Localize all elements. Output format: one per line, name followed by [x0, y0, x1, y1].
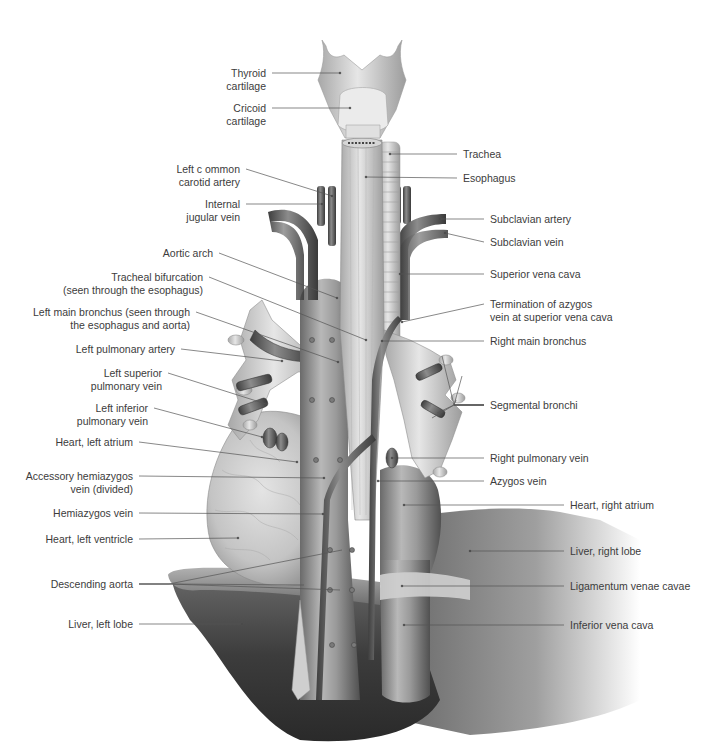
label-superior-vena-cava: Superior vena cava: [490, 268, 580, 281]
leader-dot: [365, 339, 367, 341]
leader-dot: [331, 195, 333, 197]
label-text: Azygos vein: [490, 475, 547, 488]
leader-dot: [265, 403, 267, 405]
leader-dot: [323, 477, 325, 479]
label-hemiazygos-vein: Hemiazygos vein: [53, 507, 133, 520]
label-azygos-vein: Azygos vein: [490, 475, 547, 488]
label-cricoid-cartilage: Cricoidcartilage: [226, 102, 266, 128]
label-text: cartilage: [226, 80, 266, 93]
label-text: Inferior vena cava: [570, 619, 653, 632]
label-text: pulmonary vein: [77, 415, 148, 428]
label-text: Trachea: [463, 148, 501, 161]
label-text: Left c ommon: [176, 163, 240, 176]
label-segmental-bronchi: Segmental bronchi: [490, 399, 578, 412]
label-text: Right pulmonary vein: [490, 452, 589, 465]
leader-dot: [381, 340, 383, 342]
leader-dot: [403, 504, 405, 506]
leader-line: [445, 233, 484, 242]
leader-dot: [377, 480, 379, 482]
label-text: Accessory hemiazygos: [26, 470, 133, 483]
label-text: (seen through the esophagus): [63, 284, 203, 297]
label-text: vein at superior vena cava: [490, 311, 613, 324]
label-thyroid-cartilage: Thyroidcartilage: [226, 67, 266, 93]
label-heart-right-atrium: Heart, right atrium: [570, 499, 654, 512]
label-accessory-hemiazygos-vein: Accessory hemiazygosvein (divided): [26, 470, 133, 496]
label-text: Liver, left lobe: [68, 618, 133, 631]
leader-dot: [261, 436, 263, 438]
label-text: Right main bronchus: [490, 335, 586, 348]
label-text: Aortic arch: [163, 247, 213, 260]
label-text: Heart, right atrium: [570, 499, 654, 512]
leader-dot: [389, 153, 391, 155]
label-termination-of-azygos-vein: Termination of azygosvein at superior ve…: [490, 298, 613, 324]
label-text: jugular vein: [186, 211, 240, 224]
label-left-common-carotid-artery: Left c ommoncarotid artery: [176, 163, 240, 189]
label-aortic-arch: Aortic arch: [163, 247, 213, 260]
label-text: Left main bronchus (seen through: [33, 306, 190, 319]
label-esophagus: Esophagus: [463, 172, 516, 185]
label-text: Cricoid: [226, 102, 266, 115]
leader-line: [402, 304, 484, 322]
leader-dot: [401, 585, 403, 587]
leader-dot: [322, 513, 324, 515]
label-text: Thyroid: [226, 67, 266, 80]
label-text: Superior vena cava: [490, 268, 580, 281]
label-inferior-vena-cava: Inferior vena cava: [570, 619, 653, 632]
label-heart-left-ventricle: Heart, left ventricle: [45, 533, 133, 546]
right-great-vessels: [393, 186, 448, 320]
label-text: Left inferior: [77, 402, 148, 415]
leader-line: [219, 253, 337, 298]
larynx-shape: [318, 40, 406, 138]
label-liver-right-lobe: Liver, right lobe: [570, 545, 641, 558]
leader-dot: [399, 273, 401, 275]
label-text: Liver, right lobe: [570, 545, 641, 558]
leader-dot: [281, 360, 283, 362]
leader-dot: [349, 107, 351, 109]
label-text: Left superior: [91, 367, 162, 380]
label-text: Ligamentum venae cavae: [570, 580, 690, 593]
label-text: the esophagus and aorta): [33, 319, 190, 332]
leader-dot: [469, 550, 471, 552]
leader-dot: [401, 321, 403, 323]
label-left-superior-pulmonary-vein: Left superiorpulmonary vein: [91, 367, 162, 393]
leader-dot: [391, 457, 393, 459]
label-text: Left pulmonary artery: [76, 343, 175, 356]
label-text: carotid artery: [176, 176, 240, 189]
label-internal-jugular-vein: Internaljugular vein: [186, 198, 240, 224]
label-text: Tracheal bifurcation: [63, 271, 203, 284]
leader-dot: [339, 72, 341, 74]
label-text: Heart, left atrium: [55, 436, 133, 449]
label-text: Termination of azygos: [490, 298, 613, 311]
label-descending-aorta: Descending aorta: [51, 578, 133, 591]
label-text: Subclavian artery: [490, 213, 571, 226]
leader-dot: [337, 361, 339, 363]
label-left-inferior-pulmonary-vein: Left inferiorpulmonary vein: [77, 402, 148, 428]
label-text: Subclavian vein: [490, 236, 564, 249]
label-right-main-bronchus: Right main bronchus: [490, 335, 586, 348]
label-tracheal-bifurcation: Tracheal bifurcation(seen through the es…: [63, 271, 203, 297]
label-heart-left-atrium: Heart, left atrium: [55, 436, 133, 449]
leader-line: [246, 169, 332, 196]
label-liver-left-lobe: Liver, left lobe: [68, 618, 133, 631]
label-text: Esophagus: [463, 172, 516, 185]
label-text: Heart, left ventricle: [45, 533, 133, 546]
label-left-main-bronchus: Left main bronchus (seen throughthe esop…: [33, 306, 190, 332]
label-text: Segmental bronchi: [490, 399, 578, 412]
label-trachea: Trachea: [463, 148, 501, 161]
leader-dot: [403, 624, 405, 626]
label-left-pulmonary-artery: Left pulmonary artery: [76, 343, 175, 356]
leader-dot: [237, 537, 239, 539]
label-text: Descending aorta: [51, 578, 133, 591]
label-right-pulmonary-vein: Right pulmonary vein: [490, 452, 589, 465]
leader-dot: [336, 297, 338, 299]
label-subclavian-vein: Subclavian vein: [490, 236, 564, 249]
label-text: pulmonary vein: [91, 380, 162, 393]
leader-dot: [365, 176, 367, 178]
leader-dot: [439, 218, 441, 220]
label-text: Hemiazygos vein: [53, 507, 133, 520]
label-text: cartilage: [226, 115, 266, 128]
leader-dot: [296, 461, 298, 463]
leader-dot: [444, 232, 446, 234]
label-text: vein (divided): [26, 483, 133, 496]
label-text: Internal: [186, 198, 240, 211]
